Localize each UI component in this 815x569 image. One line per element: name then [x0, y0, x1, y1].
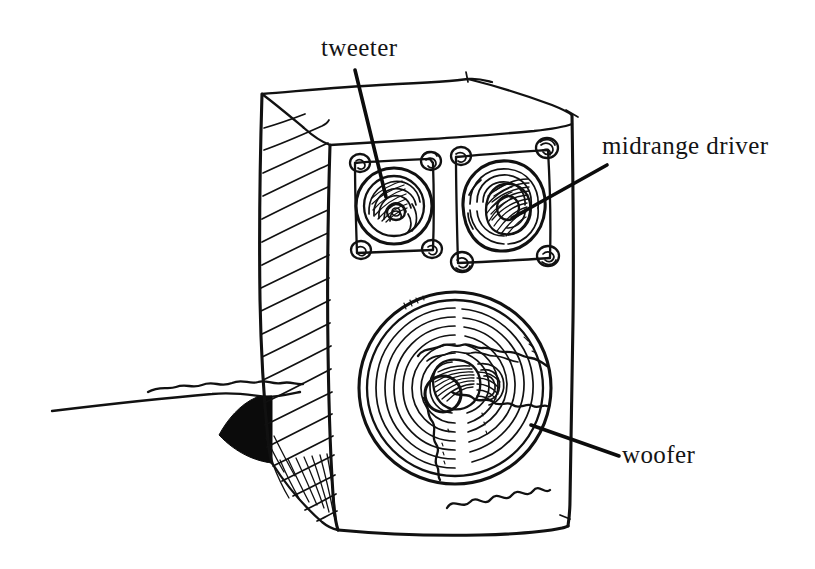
tweeter-assembly [350, 152, 442, 259]
baffle-bottom-squiggle [447, 488, 550, 508]
cabinet-side-panel [260, 94, 338, 530]
label-tweeter: tweeter [321, 35, 397, 60]
midrange-assembly [451, 138, 559, 272]
screw-bottom-right [537, 246, 559, 266]
screw-top-right [536, 138, 558, 158]
woofer-assembly [359, 292, 551, 484]
cabinet-top-panel [262, 72, 572, 145]
woofer-stipple [404, 296, 536, 464]
loudspeaker-figure: tweeter midrange driver woofer [0, 0, 815, 569]
side-panel-crosshatching [266, 436, 336, 520]
label-midrange-driver: midrange driver [602, 133, 768, 158]
loudspeaker-drawing [0, 0, 815, 569]
label-woofer: woofer [622, 442, 695, 467]
leader-line-woofer [531, 425, 619, 456]
screw-bottom-left [351, 241, 371, 259]
midrange-surround [468, 169, 538, 244]
